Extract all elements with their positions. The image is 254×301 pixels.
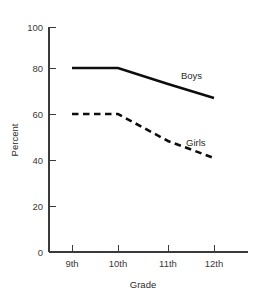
x-tick-label-11th: 11th [159, 258, 177, 269]
x-axis-title: Grade [130, 279, 156, 290]
chart-plot-area: 100 80 60 40 20 0 9th 10th 11th 12th Gra… [0, 0, 254, 301]
y-axis-title: Percent [9, 123, 20, 156]
line-chart-figure: 100 80 60 40 20 0 9th 10th 11th 12th Gra… [0, 0, 254, 301]
x-tick-label-9th: 9th [65, 258, 78, 269]
y-tick-label-80: 80 [32, 63, 43, 74]
y-tick-label-0: 0 [38, 247, 43, 258]
y-tick-label-60: 60 [32, 109, 43, 120]
series-line-girls [72, 114, 214, 158]
x-tick-label-10th: 10th [109, 258, 128, 269]
y-tick-label-100: 100 [27, 22, 43, 33]
x-tick-label-12th: 12th [205, 258, 224, 269]
series-label-boys: Boys [181, 70, 202, 81]
y-tick-label-20: 20 [32, 201, 43, 212]
series-label-girls: Girls [186, 137, 206, 148]
y-tick-label-40: 40 [32, 155, 43, 166]
